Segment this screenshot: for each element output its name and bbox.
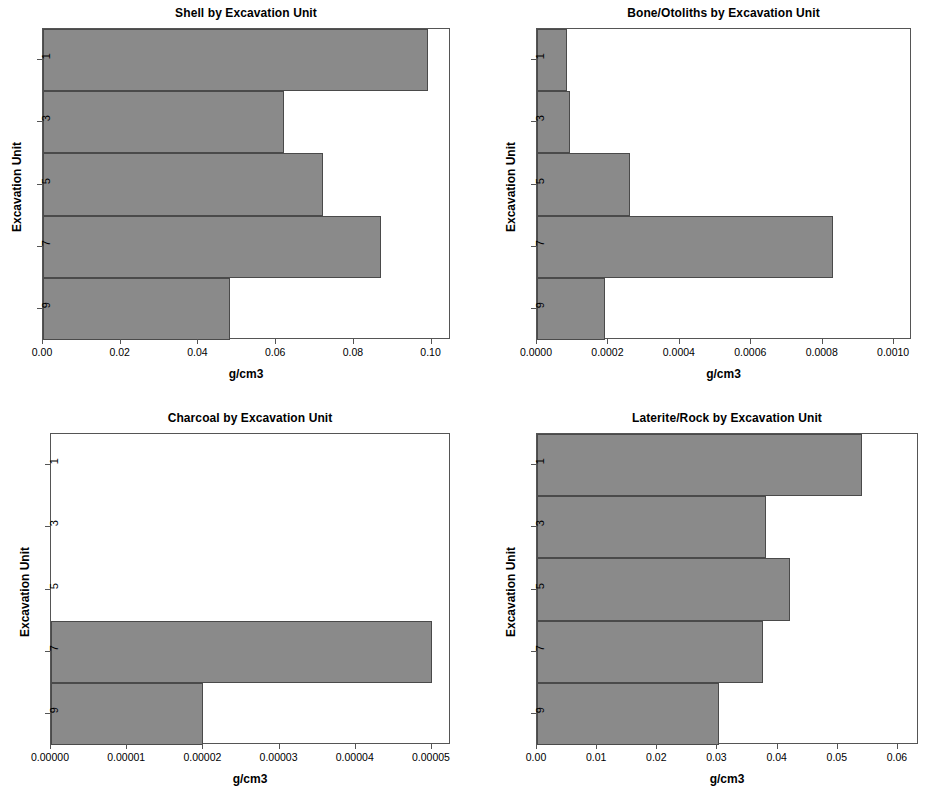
x-axis-tick-label: 0.0010 bbox=[863, 346, 923, 358]
x-axis-tick-label: 0.00 bbox=[12, 346, 72, 358]
bar bbox=[43, 216, 381, 278]
bar bbox=[537, 91, 570, 153]
x-axis-tick-label: 0.0002 bbox=[577, 346, 637, 358]
y-axis-tick-mark bbox=[45, 464, 50, 465]
bar bbox=[537, 153, 630, 215]
y-axis-tick-label: 5 bbox=[40, 178, 52, 184]
chart-title: Bone/Otoliths by Excavation Unit bbox=[536, 6, 911, 20]
chart-title: Laterite/Rock by Excavation Unit bbox=[536, 411, 918, 425]
x-axis-tick-label: 0.08 bbox=[323, 346, 383, 358]
x-axis-tick-mark bbox=[353, 339, 354, 344]
x-axis-tick-mark bbox=[197, 339, 198, 344]
x-axis-tick-label: 0.00003 bbox=[249, 751, 309, 763]
y-axis-tick-label: 3 bbox=[534, 520, 546, 526]
x-axis-tick-mark bbox=[536, 339, 537, 344]
chart-panel: Laterite/Rock by Excavation Unit13579Exc… bbox=[468, 405, 935, 809]
x-axis-tick-mark bbox=[431, 744, 432, 749]
y-axis-tick-label: 1 bbox=[534, 458, 546, 464]
x-axis-label: g/cm3 bbox=[42, 367, 450, 381]
y-axis-tick-label: 1 bbox=[40, 53, 52, 59]
plot-area bbox=[42, 28, 450, 339]
bar-series bbox=[537, 434, 917, 743]
x-axis-tick-label: 0.0006 bbox=[720, 346, 780, 358]
bar bbox=[537, 29, 567, 91]
x-axis-tick-mark bbox=[679, 339, 680, 344]
x-axis-tick-mark bbox=[126, 744, 127, 749]
x-axis-tick-mark bbox=[716, 744, 717, 749]
x-axis-tick-mark bbox=[607, 339, 608, 344]
y-axis-tick-label: 3 bbox=[48, 520, 60, 526]
y-axis-tick-mark bbox=[37, 121, 42, 122]
plot-area bbox=[50, 433, 450, 744]
x-axis-tick-label: 0.02 bbox=[626, 751, 686, 763]
y-axis-tick-mark bbox=[531, 526, 536, 527]
bar bbox=[537, 621, 763, 683]
x-axis-label: g/cm3 bbox=[50, 772, 450, 786]
x-axis-tick-mark bbox=[750, 339, 751, 344]
x-axis-tick-label: 0.10 bbox=[401, 346, 461, 358]
y-axis-label: Excavation Unit bbox=[504, 141, 518, 231]
bar-series bbox=[51, 434, 449, 743]
bar bbox=[43, 91, 284, 153]
bar-series bbox=[43, 29, 449, 338]
bar bbox=[537, 558, 790, 620]
plot-area bbox=[536, 28, 911, 339]
x-axis-tick-label: 0.0000 bbox=[506, 346, 566, 358]
y-axis-tick-label: 7 bbox=[534, 645, 546, 651]
y-axis-tick-mark bbox=[37, 59, 42, 60]
x-axis-tick-label: 0.00 bbox=[506, 751, 566, 763]
x-axis-tick-label: 0.04 bbox=[167, 346, 227, 358]
bar bbox=[537, 434, 862, 496]
x-axis-tick-mark bbox=[202, 744, 203, 749]
x-axis-tick-mark bbox=[897, 744, 898, 749]
y-axis-tick-label: 9 bbox=[534, 302, 546, 308]
y-axis-tick-label: 5 bbox=[534, 583, 546, 589]
y-axis-tick-label: 1 bbox=[534, 53, 546, 59]
x-axis-tick-mark bbox=[431, 339, 432, 344]
bar bbox=[51, 683, 203, 745]
y-axis-tick-label: 3 bbox=[40, 115, 52, 121]
x-axis-tick-label: 0.00005 bbox=[401, 751, 461, 763]
y-axis-tick-label: 7 bbox=[40, 240, 52, 246]
bar bbox=[51, 621, 432, 683]
bar bbox=[43, 278, 230, 340]
x-axis-tick-mark bbox=[596, 744, 597, 749]
y-axis-tick-label: 9 bbox=[48, 707, 60, 713]
x-axis-label: g/cm3 bbox=[536, 367, 911, 381]
y-axis-tick-label: 5 bbox=[534, 178, 546, 184]
x-axis-tick-label: 0.0004 bbox=[649, 346, 709, 358]
x-axis-tick-mark bbox=[822, 339, 823, 344]
x-axis-tick-label: 0.01 bbox=[566, 751, 626, 763]
bar bbox=[537, 683, 719, 745]
x-axis-tick-mark bbox=[837, 744, 838, 749]
bar bbox=[43, 153, 323, 215]
bar bbox=[537, 278, 605, 340]
y-axis-tick-mark bbox=[531, 121, 536, 122]
chart-title: Charcoal by Excavation Unit bbox=[50, 411, 450, 425]
bar bbox=[537, 216, 833, 278]
x-axis-tick-label: 0.03 bbox=[686, 751, 746, 763]
x-axis-tick-label: 0.00004 bbox=[325, 751, 385, 763]
x-axis-label: g/cm3 bbox=[536, 772, 918, 786]
y-axis-tick-label: 9 bbox=[40, 302, 52, 308]
chart-panel: Charcoal by Excavation Unit13579Excavati… bbox=[0, 405, 467, 809]
x-axis-tick-label: 0.02 bbox=[90, 346, 150, 358]
y-axis-tick-label: 9 bbox=[534, 707, 546, 713]
bar bbox=[537, 496, 766, 558]
y-axis-tick-label: 7 bbox=[534, 240, 546, 246]
y-axis-tick-label: 5 bbox=[48, 583, 60, 589]
bar-series bbox=[537, 29, 910, 338]
x-axis-tick-mark bbox=[279, 744, 280, 749]
bar bbox=[43, 29, 428, 91]
x-axis-tick-mark bbox=[120, 339, 121, 344]
x-axis-tick-mark bbox=[893, 339, 894, 344]
x-axis-tick-label: 0.04 bbox=[747, 751, 807, 763]
y-axis-label: Excavation Unit bbox=[18, 546, 32, 636]
x-axis-tick-mark bbox=[50, 744, 51, 749]
chart-panel: Bone/Otoliths by Excavation Unit13579Exc… bbox=[468, 0, 935, 404]
chart-panel: Shell by Excavation Unit13579Excavation … bbox=[0, 0, 467, 404]
x-axis-tick-label: 0.06 bbox=[245, 346, 305, 358]
x-axis-tick-mark bbox=[275, 339, 276, 344]
y-axis-tick-mark bbox=[45, 526, 50, 527]
y-axis-label: Excavation Unit bbox=[10, 141, 24, 231]
